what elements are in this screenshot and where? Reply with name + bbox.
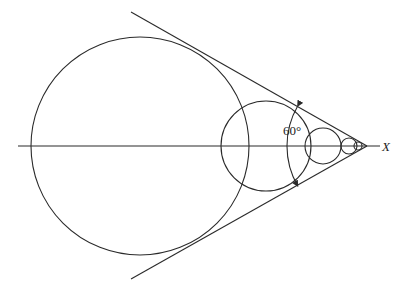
lower-tangent-line (131, 146, 367, 279)
upper-tangent-line (131, 12, 367, 146)
x-axis-label: X (381, 139, 391, 154)
diagram-canvas: 60° X (0, 0, 401, 290)
angle-label: 60° (283, 123, 301, 138)
